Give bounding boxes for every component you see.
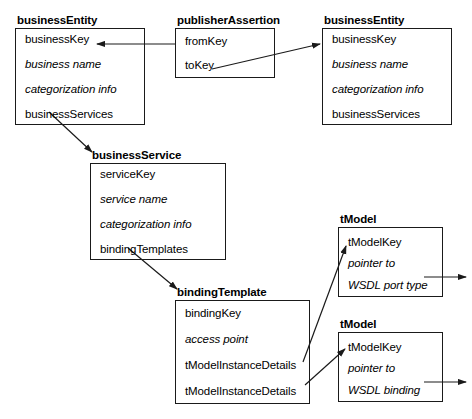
field-business-services: businessServices xyxy=(16,108,144,120)
field-pointer-to: pointer to xyxy=(339,361,442,375)
node-box-tmodel-binding: tModelKey pointer to WSDL binding xyxy=(338,332,443,402)
node-title-tmodel-binding: tModel xyxy=(338,318,443,330)
field-tmodel-key: tModelKey xyxy=(339,236,442,248)
node-business-service: businessService serviceKey service name … xyxy=(90,149,226,260)
field-binding-key: bindingKey xyxy=(176,307,309,319)
node-tmodel-binding: tModel tModelKey pointer to WSDL binding xyxy=(338,318,443,402)
field-binding-templates: bindingTemplates xyxy=(91,243,225,255)
field-business-name: business name xyxy=(16,58,144,70)
node-business-entity-right: businessEntity businessKey business name… xyxy=(322,14,452,125)
field-service-name: service name xyxy=(91,193,225,205)
field-pointer-to: pointer to xyxy=(339,256,442,270)
field-from-key: fromKey xyxy=(176,35,274,47)
node-title-publisher-assertion: publisherAssertion xyxy=(175,14,280,26)
node-business-entity-left: businessEntity businessKey business name… xyxy=(15,14,145,125)
node-publisher-assertion: publisherAssertion fromKey toKey xyxy=(175,14,280,78)
field-to-key: toKey xyxy=(176,59,274,71)
field-business-key: businessKey xyxy=(323,33,451,45)
field-business-name: business name xyxy=(323,58,451,70)
field-categorization-info: categorization info xyxy=(323,83,451,95)
node-box-tmodel-port-type: tModelKey pointer to WSDL port type xyxy=(338,227,443,297)
node-box-business-service: serviceKey service name categorization i… xyxy=(90,163,226,260)
field-tmodel-key: tModelKey xyxy=(339,341,442,353)
uddi-structure-diagram: businessEntity businessKey business name… xyxy=(0,0,472,419)
field-access-point: access point xyxy=(176,333,309,345)
node-box-publisher-assertion: fromKey toKey xyxy=(175,28,275,78)
field-categorization-info: categorization info xyxy=(16,83,144,95)
node-title-binding-template: bindingTemplate xyxy=(175,286,310,298)
field-tmodel-instance-details-2: tModelInstanceDetails xyxy=(176,385,309,397)
field-categorization-info: categorization info xyxy=(91,218,225,230)
field-business-services: businessServices xyxy=(323,108,451,120)
node-tmodel-port-type: tModel tModelKey pointer to WSDL port ty… xyxy=(338,213,443,297)
field-tmodel-instance-details-1: tModelInstanceDetails xyxy=(176,359,309,371)
field-wsdl-binding: WSDL binding xyxy=(339,383,442,397)
field-wsdl-port-type: WSDL port type xyxy=(339,278,442,292)
field-service-key: serviceKey xyxy=(91,168,225,180)
node-title-business-entity-right: businessEntity xyxy=(322,14,452,26)
field-business-key: businessKey xyxy=(16,33,144,45)
node-title-business-service: businessService xyxy=(90,149,226,161)
node-title-business-entity-left: businessEntity xyxy=(15,14,145,26)
node-binding-template: bindingTemplate bindingKey access point … xyxy=(175,286,310,404)
node-box-business-entity-right: businessKey business name categorization… xyxy=(322,28,452,125)
node-box-binding-template: bindingKey access point tModelInstanceDe… xyxy=(175,300,310,404)
node-box-business-entity-left: businessKey business name categorization… xyxy=(15,28,145,125)
node-title-tmodel-port-type: tModel xyxy=(338,213,443,225)
